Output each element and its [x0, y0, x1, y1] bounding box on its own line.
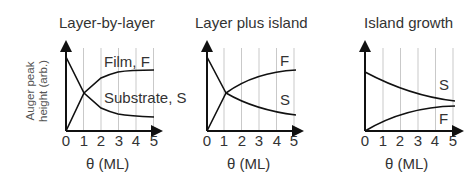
tick-3: 3: [255, 132, 263, 149]
diagram-graphics: [0, 0, 476, 179]
tick-2: 2: [97, 132, 105, 149]
tick-1: 1: [379, 132, 387, 149]
tick-3: 3: [115, 132, 123, 149]
panel-3-film-label: F: [439, 110, 448, 127]
tick-5: 5: [449, 132, 457, 149]
panel-2-substrate-label: S: [280, 91, 290, 108]
tick-1: 1: [80, 132, 88, 149]
tick-4: 4: [132, 132, 140, 149]
tick-0: 0: [203, 132, 211, 149]
tick-5: 5: [150, 132, 158, 149]
panel-2-x-axis-label: θ (ML): [227, 155, 270, 172]
tick-0: 0: [361, 132, 369, 149]
panel-3-substrate-label: S: [439, 76, 449, 93]
panel-1-film-label: Film, F: [104, 53, 150, 70]
tick-2: 2: [396, 132, 404, 149]
panel-3-x-axis-label: θ (ML): [385, 155, 428, 172]
panel-1-substrate-label: Substrate, S: [104, 89, 187, 106]
tick-1: 1: [220, 132, 228, 149]
panel-2-film-label: F: [280, 52, 289, 69]
tick-4: 4: [273, 132, 281, 149]
tick-5: 5: [290, 132, 298, 149]
panel-1-x-axis-label: θ (ML): [86, 155, 129, 172]
tick-2: 2: [238, 132, 246, 149]
tick-3: 3: [414, 132, 422, 149]
tick-0: 0: [62, 132, 70, 149]
tick-4: 4: [431, 132, 439, 149]
